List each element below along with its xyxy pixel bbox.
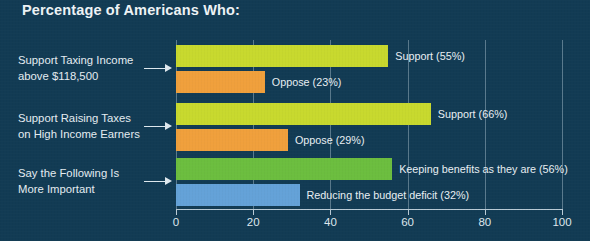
bar-row: Support (55%) xyxy=(176,45,562,67)
tick-mark-100 xyxy=(562,210,563,215)
bar xyxy=(176,103,431,125)
x-tick-label: 80 xyxy=(478,216,491,228)
bar-row: Reducing the budget deficit (32%) xyxy=(176,184,562,206)
bar xyxy=(176,45,388,67)
bar-row: Oppose (29%) xyxy=(176,129,562,151)
tick-mark-20 xyxy=(253,210,254,215)
x-tick-label: 100 xyxy=(552,216,571,228)
category-block: Support Taxing Income above $118,500 xyxy=(18,52,176,86)
bar-value-label: Support (66%) xyxy=(431,108,508,120)
tick-mark-0 xyxy=(176,210,177,215)
bar xyxy=(176,129,288,151)
bar-row: Keeping benefits as they are (56%) xyxy=(176,158,562,180)
tick-mark-40 xyxy=(330,210,331,215)
arrow-shaft xyxy=(144,181,167,182)
x-tick-label: 0 xyxy=(173,216,179,228)
arrow-shaft xyxy=(144,68,167,69)
arrow-right-icon xyxy=(144,121,172,132)
tick-mark-80 xyxy=(485,210,486,215)
arrow-right-icon xyxy=(144,63,172,74)
arrow-shaft xyxy=(144,126,167,127)
chart-plot-area: Support (55%)Oppose (23%)Support (66%)Op… xyxy=(176,40,562,210)
bar-value-label: Keeping benefits as they are (56%) xyxy=(392,163,568,175)
x-tick-label: 60 xyxy=(401,216,414,228)
bar-value-label: Reducing the budget deficit (32%) xyxy=(300,189,470,201)
category-block: Support Raising Taxes on High Income Ear… xyxy=(18,110,176,144)
arrow-head xyxy=(165,122,172,130)
bar-row: Support (66%) xyxy=(176,103,562,125)
bar-value-label: Oppose (29%) xyxy=(288,134,365,146)
page-title: Percentage of Americans Who: xyxy=(22,2,240,18)
x-tick-label: 20 xyxy=(247,216,260,228)
arrow-right-icon xyxy=(144,176,172,187)
x-tick-label: 40 xyxy=(324,216,337,228)
tick-mark-60 xyxy=(408,210,409,215)
bar-row: Oppose (23%) xyxy=(176,71,562,93)
bar-value-label: Support (55%) xyxy=(388,50,465,62)
x-axis-line xyxy=(176,209,563,210)
bar xyxy=(176,184,300,206)
bar-value-label: Oppose (23%) xyxy=(265,76,342,88)
bar xyxy=(176,158,392,180)
arrow-head xyxy=(165,177,172,185)
category-block: Say the Following Is More Important xyxy=(18,165,176,199)
gridline-100 xyxy=(562,40,563,210)
bar xyxy=(176,71,265,93)
arrow-head xyxy=(165,64,172,72)
